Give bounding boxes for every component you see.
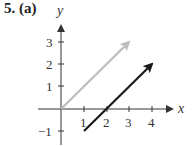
- y-tick-3: 3: [46, 35, 53, 50]
- y-tick-2: 2: [46, 57, 53, 72]
- x-tick-1: 1: [80, 115, 87, 130]
- y-tick-neg1: −1: [38, 124, 52, 139]
- y-axis-label: y: [55, 3, 64, 18]
- y-tick-1: 1: [46, 79, 53, 94]
- black-vector: [84, 64, 152, 131]
- x-tick-3: 3: [125, 115, 132, 130]
- vector-diagram: 1 2 3 4 3 2 1 −1 x y: [0, 0, 192, 146]
- x-axis-label: x: [177, 101, 185, 116]
- x-tick-2: 2: [103, 115, 110, 130]
- x-tick-4: 4: [148, 115, 155, 130]
- gray-vector: [61, 42, 129, 109]
